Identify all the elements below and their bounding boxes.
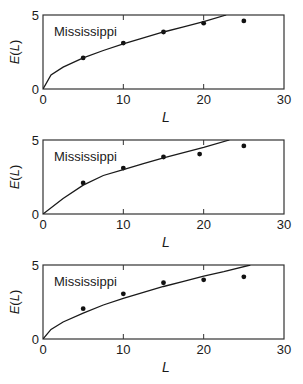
- data-point: [241, 274, 246, 279]
- x-axis-label: L: [162, 359, 170, 375]
- y-axis-label: E(L): [7, 290, 22, 315]
- chart-panel-1: 010203005LE(L)Mississippi: [7, 8, 291, 125]
- x-tick-label: 30: [277, 217, 291, 232]
- x-tick-label: 20: [196, 92, 210, 107]
- data-point: [197, 152, 202, 157]
- data-point: [121, 291, 126, 296]
- y-tick-label: 5: [32, 133, 39, 148]
- y-axis-label: E(L): [7, 165, 22, 190]
- x-tick-label: 0: [39, 92, 46, 107]
- x-tick-label: 20: [196, 217, 210, 232]
- y-tick-label: 5: [32, 258, 39, 273]
- y-tick-label: 0: [32, 82, 39, 97]
- x-tick-label: 30: [277, 92, 291, 107]
- y-tick-label: 5: [32, 8, 39, 23]
- x-tick-label: 0: [39, 342, 46, 357]
- chart-panel-2: 010203005LE(L)Mississippi: [7, 133, 291, 250]
- data-point: [161, 280, 166, 285]
- data-point: [81, 306, 86, 311]
- x-tick-label: 0: [39, 217, 46, 232]
- chart-stack: 010203005LE(L)Mississippi 010203005LE(L)…: [0, 0, 303, 384]
- x-axis-label: L: [162, 109, 170, 125]
- chart-panel-3: 010203005LE(L)Mississippi: [7, 258, 291, 375]
- y-axis-label: E(L): [7, 40, 22, 65]
- x-tick-label: 20: [196, 342, 210, 357]
- x-tick-label: 10: [116, 92, 130, 107]
- data-point: [201, 277, 206, 282]
- data-point: [241, 19, 246, 24]
- y-tick-label: 0: [32, 332, 39, 347]
- river-annotation: Mississippi: [54, 274, 117, 289]
- data-point: [241, 144, 246, 149]
- x-tick-label: 30: [277, 342, 291, 357]
- x-tick-label: 10: [116, 217, 130, 232]
- charts-svg: 010203005LE(L)Mississippi 010203005LE(L)…: [0, 0, 303, 384]
- river-annotation: Mississippi: [54, 24, 117, 39]
- x-axis-label: L: [162, 234, 170, 250]
- y-tick-label: 0: [32, 207, 39, 222]
- river-annotation: Mississippi: [54, 149, 117, 164]
- x-tick-label: 10: [116, 342, 130, 357]
